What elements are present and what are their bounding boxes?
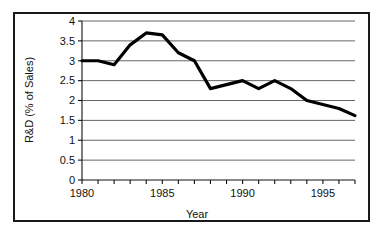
y-axis-ticks — [78, 21, 82, 180]
y-tick-label: 1 — [69, 134, 75, 146]
y-tick-label: 2 — [69, 94, 75, 106]
y-tick-label: 3 — [69, 55, 75, 67]
y-axis-title: R&D (% of Sales) — [23, 57, 35, 143]
x-axis-ticks — [82, 180, 355, 184]
y-tick-label: 0 — [69, 174, 75, 186]
x-tick-label: 1995 — [311, 187, 335, 199]
x-axis-tick-labels: 1980198519901995 — [70, 187, 335, 199]
chart-plot: 43.532.521.510.50 1980198519901995 Year … — [0, 0, 384, 232]
y-tick-label: 1.5 — [60, 114, 75, 126]
x-tick-label: 1985 — [150, 187, 174, 199]
x-tick-label: 1990 — [230, 187, 254, 199]
y-tick-label: 2.5 — [60, 74, 75, 86]
data-series-line — [82, 33, 355, 116]
gridlines — [82, 21, 355, 160]
y-axis-tick-labels: 43.532.521.510.50 — [60, 15, 75, 186]
y-tick-label: 3.5 — [60, 35, 75, 47]
figure: 43.532.521.510.50 1980198519901995 Year … — [0, 0, 384, 232]
y-tick-label: 0.5 — [60, 154, 75, 166]
x-axis-title: Year — [186, 208, 209, 220]
x-tick-label: 1980 — [70, 187, 94, 199]
y-tick-label: 4 — [69, 15, 75, 27]
